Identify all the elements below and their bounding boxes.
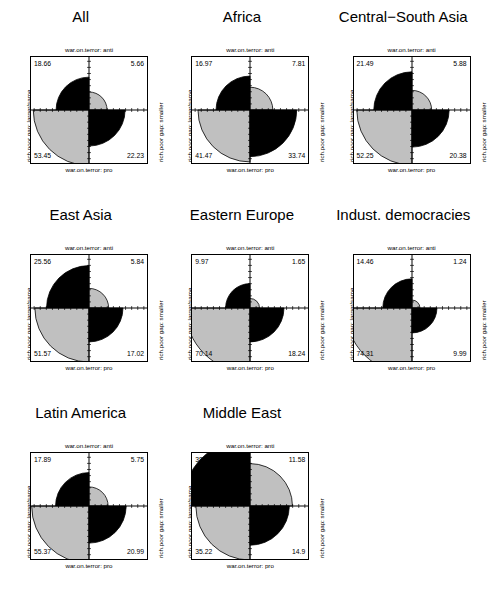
panel-title: Indust. democracies <box>323 206 484 223</box>
panel-title: Central−South Asia <box>323 8 484 25</box>
panel-row: All war.on.terror: anti rich.poor gap: l… <box>0 0 484 198</box>
plot-frame: 14.46 1.24 74.31 9.99 <box>353 254 471 362</box>
axis-label-bottom: war.on.terror: pro <box>30 562 148 570</box>
cell-count-top-right: 5.66 <box>131 60 144 68</box>
cell-count-top-right: 1.65 <box>292 258 305 266</box>
axis-label-top: war.on.terror: anti <box>30 46 148 54</box>
axis-label-bottom: war.on.terror: pro <box>353 364 471 372</box>
plot-frame: 38.3 11.58 35.22 14.9 <box>191 452 309 560</box>
cell-count-bottom-left: 35.22 <box>195 548 212 556</box>
fourfold-panel: East Asia war.on.terror: anti rich.poor … <box>0 198 161 396</box>
plot-frame: 18.66 5.66 53.45 22.23 <box>30 56 148 164</box>
cell-count-bottom-left: 74.31 <box>357 350 374 358</box>
cell-count-top-left: 14.46 <box>357 258 374 266</box>
axis-label-bottom: war.on.terror: pro <box>30 364 148 372</box>
cell-count-bottom-right: 22.23 <box>127 152 144 160</box>
panel-row: East Asia war.on.terror: anti rich.poor … <box>0 198 484 396</box>
cell-count-top-left: 17.89 <box>34 456 51 464</box>
cell-count-bottom-left: 52.25 <box>357 152 374 160</box>
cell-count-top-left: 9.97 <box>195 258 208 266</box>
axis-label-bottom: war.on.terror: pro <box>30 166 148 174</box>
fourfold-panel: All war.on.terror: anti rich.poor gap: l… <box>0 0 161 198</box>
axis-label-right: rich.poor gap: smaller <box>318 499 326 559</box>
fourfold-panel: Africa war.on.terror: anti rich.poor gap… <box>161 0 322 198</box>
panel-row: Latin America war.on.terror: anti rich.p… <box>0 396 484 594</box>
cell-count-top-right: 5.88 <box>453 60 466 68</box>
axis-label-top: war.on.terror: anti <box>191 244 309 252</box>
cell-count-bottom-right: 9.99 <box>453 350 466 358</box>
cell-count-bottom-left: 70.14 <box>195 350 212 358</box>
axis-label-top: war.on.terror: anti <box>191 442 309 450</box>
axis-label-bottom: war.on.terror: pro <box>191 166 309 174</box>
cell-count-bottom-right: 17.02 <box>127 350 144 358</box>
cell-count-bottom-left: 51.57 <box>34 350 51 358</box>
fourfold-panel: Central−South Asia war.on.terror: anti r… <box>323 0 484 198</box>
axis-label-top: war.on.terror: anti <box>30 442 148 450</box>
fourfold-panel: Middle East war.on.terror: anti rich.poo… <box>161 396 322 594</box>
axis-label-top: war.on.terror: anti <box>353 46 471 54</box>
cell-count-bottom-right: 18.24 <box>288 350 305 358</box>
panel-title: Middle East <box>161 404 322 421</box>
plot-frame: 9.97 1.65 70.14 18.24 <box>191 254 309 362</box>
panel-title: East Asia <box>0 206 161 223</box>
cell-count-top-left: 16.97 <box>195 60 212 68</box>
axis-label-top: war.on.terror: anti <box>30 244 148 252</box>
cell-count-bottom-left: 41.47 <box>195 152 212 160</box>
plot-frame: 25.56 5.84 51.57 17.02 <box>30 254 148 362</box>
plot-frame: 21.49 5.88 52.25 20.38 <box>353 56 471 164</box>
plot-frame: 17.89 5.75 55.37 20.99 <box>30 452 148 560</box>
fourfold-panel: Indust. democracies war.on.terror: anti … <box>323 198 484 396</box>
cell-count-bottom-right: 14.9 <box>292 548 305 556</box>
panel-title: Africa <box>161 8 322 25</box>
cell-count-bottom-right: 33.74 <box>288 152 305 160</box>
axis-label-right: rich.poor gap: smaller <box>480 301 488 361</box>
cell-count-top-left: 21.49 <box>357 60 374 68</box>
cell-count-bottom-left: 53.45 <box>34 152 51 160</box>
fourfold-panel: Eastern Europe war.on.terror: anti rich.… <box>161 198 322 396</box>
empty-cell <box>323 396 484 594</box>
axis-label-bottom: war.on.terror: pro <box>191 364 309 372</box>
panel-title: Latin America <box>0 404 161 421</box>
axis-label-bottom: war.on.terror: pro <box>353 166 471 174</box>
axis-label-top: war.on.terror: anti <box>353 244 471 252</box>
cell-count-top-left: 18.66 <box>34 60 51 68</box>
cell-count-top-right: 1.24 <box>453 258 466 266</box>
panel-title: All <box>0 8 161 25</box>
cell-count-top-right: 5.84 <box>131 258 144 266</box>
cell-count-top-left: 25.56 <box>34 258 51 266</box>
fourfold-panel: Latin America war.on.terror: anti rich.p… <box>0 396 161 594</box>
cell-count-top-right: 7.81 <box>292 60 305 68</box>
axis-label-bottom: war.on.terror: pro <box>191 562 309 570</box>
axis-label-top: war.on.terror: anti <box>191 46 309 54</box>
axis-label-right: rich.poor gap: smaller <box>480 103 488 163</box>
cell-count-top-right: 11.58 <box>289 456 306 464</box>
cell-count-top-right: 5.75 <box>131 456 144 464</box>
cell-count-top-left: 38.3 <box>195 456 208 464</box>
cell-count-bottom-right: 20.99 <box>127 548 144 556</box>
panel-title: Eastern Europe <box>161 206 322 223</box>
plot-frame: 16.97 7.81 41.47 33.74 <box>191 56 309 164</box>
cell-count-bottom-right: 20.38 <box>450 152 467 160</box>
cell-count-bottom-left: 55.37 <box>34 548 51 556</box>
